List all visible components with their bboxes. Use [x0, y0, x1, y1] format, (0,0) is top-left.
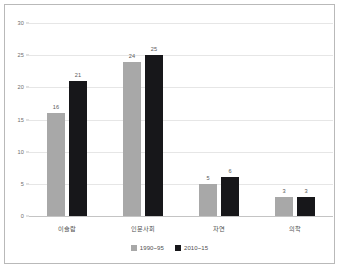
bar-item[interactable]: 3: [297, 23, 315, 216]
bar-value-label: 3: [282, 189, 285, 195]
y-tick-label-20: 20: [18, 84, 24, 90]
y-tick-label-0: 0: [21, 213, 24, 219]
bar-group: 33: [257, 23, 333, 216]
y-tick-label-15: 15: [18, 117, 24, 123]
x-axis-label: 의학: [289, 224, 301, 233]
legend-item[interactable]: 1990~95: [131, 245, 164, 251]
y-tick-label-5: 5: [21, 181, 24, 187]
y-tick-label-30: 30: [18, 20, 24, 26]
legend-swatch-icon: [131, 245, 137, 251]
legend-label: 1990~95: [140, 245, 164, 251]
bar-group: 1621: [29, 23, 105, 216]
bar-series-2010[interactable]: [221, 177, 239, 216]
bar-group: 2425: [105, 23, 181, 216]
x-axis-labels: 이슬람인문사회자연의학: [29, 224, 333, 238]
bar-value-label: 25: [151, 47, 157, 53]
bar-item[interactable]: 6: [221, 23, 239, 216]
bar-series-1990[interactable]: [275, 197, 293, 216]
bar-value-label: 21: [75, 73, 81, 79]
bar-value-label: 6: [228, 169, 231, 175]
bar-series-1990[interactable]: [47, 113, 65, 216]
chart-figure: 051015202530 162124255633 이슬람인문사회자연의학 19…: [4, 4, 335, 264]
bar-value-label: 3: [304, 189, 307, 195]
y-tick-label-25: 25: [18, 52, 24, 58]
bar-series-1990[interactable]: [123, 62, 141, 216]
bar-series-2010[interactable]: [69, 81, 87, 216]
bar-series-2010[interactable]: [145, 55, 163, 216]
y-tick-label-10: 10: [18, 149, 24, 155]
bar-series-2010[interactable]: [297, 197, 315, 216]
chart-legend: 1990~952010~15: [5, 245, 334, 251]
legend-item[interactable]: 2010~15: [175, 245, 208, 251]
bar-item[interactable]: 3: [275, 23, 293, 216]
legend-swatch-icon: [175, 245, 181, 251]
x-axis-label: 이슬람: [58, 224, 76, 233]
bar-item[interactable]: 25: [145, 23, 163, 216]
bar-item[interactable]: 16: [47, 23, 65, 216]
bar-group: 56: [181, 23, 257, 216]
legend-label: 2010~15: [184, 245, 208, 251]
bar-value-label: 16: [53, 105, 59, 111]
bar-value-label: 24: [129, 54, 135, 60]
bar-item[interactable]: 21: [69, 23, 87, 216]
bar-series-1990[interactable]: [199, 184, 217, 216]
x-axis-label: 자연: [213, 224, 225, 233]
bar-item[interactable]: 24: [123, 23, 141, 216]
plot-area: 051015202530 162124255633: [29, 23, 333, 216]
bar-item[interactable]: 5: [199, 23, 217, 216]
bar-value-label: 5: [206, 176, 209, 182]
gridline-0: [29, 216, 333, 217]
bars-layer: 162124255633: [29, 23, 333, 216]
x-axis-label: 인문사회: [131, 224, 155, 233]
